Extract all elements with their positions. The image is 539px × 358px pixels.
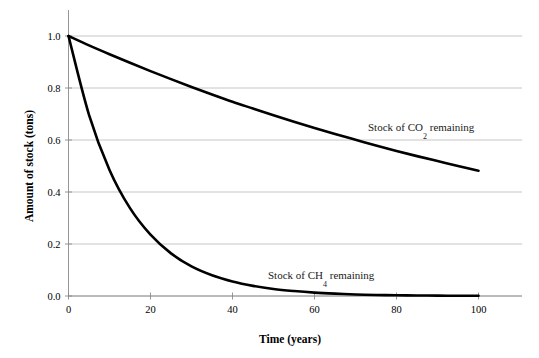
y-tick-label-0_8: 0.8	[47, 83, 60, 94]
x-tick-label-60: 60	[309, 304, 320, 315]
x-tick-label-20: 20	[145, 304, 156, 315]
y-tick-label-1: 1.0	[47, 31, 60, 42]
x-tick-label-80: 80	[391, 304, 402, 315]
y-tick-label-0: 0.0	[47, 291, 60, 302]
y-tick-label-0_4: 0.4	[47, 187, 61, 198]
annotation-ch4-suffix: remaining	[327, 269, 375, 281]
annotation-co2-suffix: remaining	[427, 121, 475, 133]
annotation-co2-prefix: Stock of CO	[368, 121, 423, 133]
y-tick-label-0_6: 0.6	[47, 135, 60, 146]
line-chart: 0.00.20.40.60.81.0 020406080100 Stock of…	[0, 0, 539, 358]
x-axis-title: Time (years)	[259, 333, 321, 346]
x-tick-label-0: 0	[66, 304, 71, 315]
x-tick-label-100: 100	[471, 304, 487, 315]
chart-background	[0, 0, 539, 358]
x-tick-label-40: 40	[227, 304, 238, 315]
y-axis-title: Amount of stock (tons)	[23, 110, 36, 222]
annotation-ch4-prefix: Stock of CH	[268, 269, 323, 281]
chart-container: 0.00.20.40.60.81.0 020406080100 Stock of…	[0, 0, 539, 358]
y-tick-label-0_2: 0.2	[47, 239, 60, 250]
